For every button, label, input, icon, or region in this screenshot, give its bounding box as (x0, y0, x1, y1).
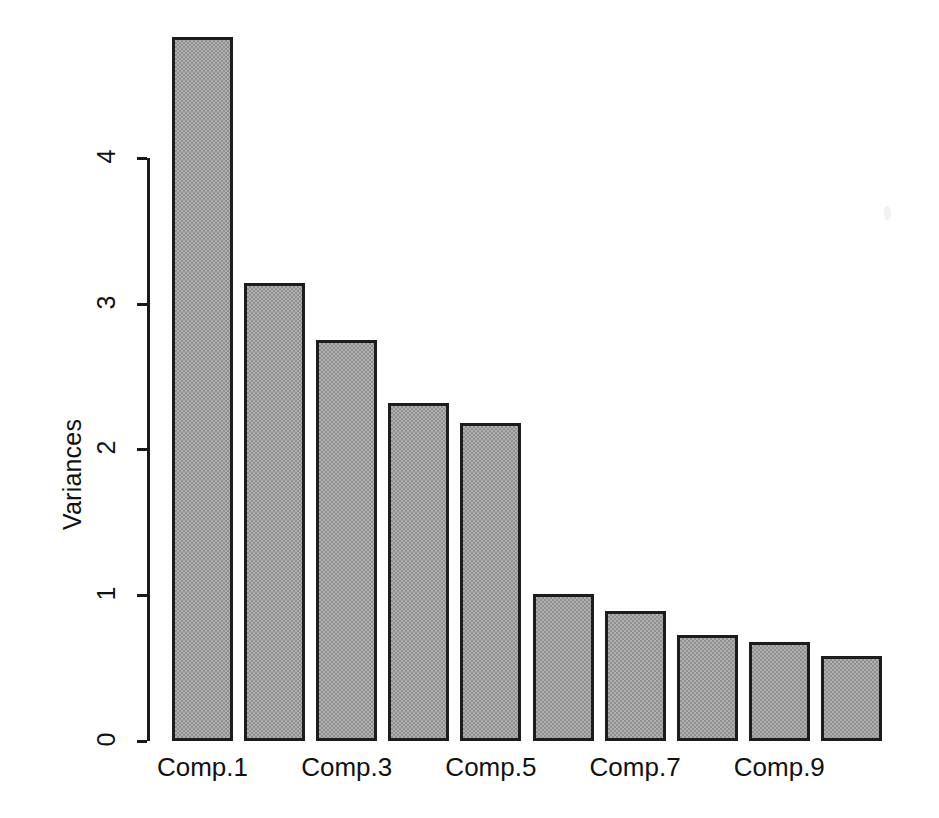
x-axis-tick-label: Comp.5 (445, 752, 536, 783)
bar (749, 642, 810, 741)
x-axis-tick-label: Comp.9 (734, 752, 825, 783)
x-axis-tick-label: Comp.3 (301, 752, 392, 783)
scan-artifact-speck (884, 206, 891, 220)
bar (316, 340, 377, 741)
bar (244, 283, 305, 741)
x-axis-tick-label: Comp.1 (157, 752, 248, 783)
bar (605, 611, 666, 741)
bar (460, 423, 521, 741)
bar (172, 37, 233, 741)
bar-series (0, 0, 939, 818)
x-axis-tick-label: Comp.7 (590, 752, 681, 783)
bar (677, 635, 738, 741)
screeplot-chart: Variances 01234 Comp.1Comp.3Comp.5Comp.7… (0, 0, 939, 818)
bar (388, 403, 449, 741)
bar (821, 656, 882, 741)
bar (533, 594, 594, 741)
